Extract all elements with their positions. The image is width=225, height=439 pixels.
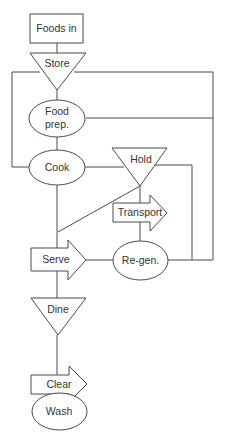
wash-label: Wash [46,405,73,417]
clear-label: Clear [46,378,72,390]
node-wash: Wash [32,393,87,430]
food-prep-label-line1: Food [45,105,69,117]
node-serve: Serve [31,240,86,280]
cook-label: Cook [45,161,70,173]
regen-label: Re-gen. [122,254,159,266]
node-regen: Re-gen. [113,241,168,280]
node-dine: Dine [31,298,86,335]
hold-label: Hold [130,153,152,165]
node-food-prep: Food prep. [29,100,85,137]
foods-in-label: Foods in [36,22,76,34]
flowchart-canvas: Foods in Store Food prep. Cook Hold Tran… [0,0,225,439]
node-foods-in: Foods in [30,14,83,43]
transport-label: Transport [118,206,163,218]
serve-label: Serve [42,253,70,265]
dine-label: Dine [47,303,69,315]
food-prep-label-line2: prep. [45,118,69,130]
node-cook: Cook [29,150,85,185]
store-label: Store [44,57,69,69]
